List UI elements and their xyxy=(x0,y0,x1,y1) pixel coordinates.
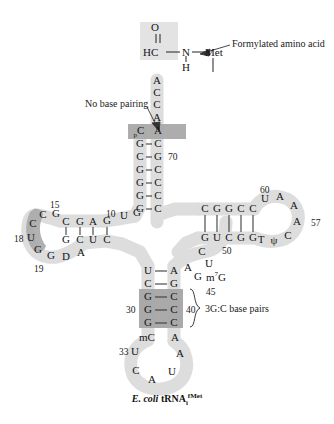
base-acstem-left-2: G xyxy=(142,291,154,302)
base-dstem-bottom-3: C xyxy=(101,234,113,245)
base-tstem-top-0: C xyxy=(199,203,211,214)
base-acceptor-right-6: C xyxy=(152,203,164,214)
label-30: 30 xyxy=(126,306,136,316)
base-acstem-right-1: G xyxy=(168,278,180,289)
base-tloop-4: C xyxy=(282,230,294,241)
formyl-oxygen: O xyxy=(151,22,159,33)
label-70: 70 xyxy=(168,153,178,163)
annotation-formylated: Formylated amino acid xyxy=(232,38,325,49)
base-tloop-1: A xyxy=(274,191,286,202)
formyl-hydrogen: H xyxy=(182,62,190,73)
base-acceptor-right-1: C xyxy=(152,138,164,149)
label-60: 60 xyxy=(260,186,270,196)
base-acstem-left-3: G xyxy=(142,304,154,315)
base-acceptor-left-3: G xyxy=(134,164,146,175)
figure-caption: E. coli tRNAifMet xyxy=(0,392,334,407)
label-57: 57 xyxy=(311,219,321,229)
base-dloop-2: C xyxy=(27,218,39,229)
base-acceptor-right-2: G xyxy=(152,151,164,162)
base-acceptor-left-5: G xyxy=(134,190,146,201)
caption-subscript: i xyxy=(186,399,188,407)
base-acceptor-end-3: A xyxy=(151,112,163,123)
base-acstem-right-2: C xyxy=(168,291,180,302)
caption-trna: tRNA xyxy=(161,393,186,404)
base-dloop-3: U xyxy=(25,232,37,243)
base-acstem-right-3: C xyxy=(168,304,180,315)
base-acloop-2: A xyxy=(146,374,158,385)
met-label: Met xyxy=(205,47,223,58)
formyl-hc: HC xyxy=(143,47,158,58)
base-tloop-2: A xyxy=(288,200,300,211)
base-acceptor-end-1: C xyxy=(151,87,163,98)
base-dstem-top-2: A xyxy=(87,216,99,227)
base-acstem-right-0: A xyxy=(168,265,180,276)
label-15: 15 xyxy=(50,201,60,211)
label-45: 45 xyxy=(206,288,216,298)
base-junction-left-0: U xyxy=(118,210,130,221)
base-tstem-bottom-2: C xyxy=(223,232,235,243)
label-18: 18 xyxy=(14,235,24,245)
base-variable-0: C xyxy=(196,246,208,257)
label-10: 10 xyxy=(106,210,116,220)
base-acloop-4: A xyxy=(174,348,186,359)
base-variable-1: U xyxy=(203,258,215,269)
base-tstem-top-2: G xyxy=(223,203,235,214)
base-tloop-6: T xyxy=(255,234,267,245)
base-acceptor-left-1: G xyxy=(134,138,146,149)
base-tstem-top-1: G xyxy=(211,203,223,214)
annotation-gc-base-pairs: 3G:C base pairs xyxy=(205,303,269,314)
label-40: 40 xyxy=(186,306,196,316)
base-tstem-bottom-3: G xyxy=(235,232,247,243)
base-variable-3: G xyxy=(192,271,204,282)
annotation-no-base-pairing: No base pairing xyxy=(85,98,148,109)
formyl-nitrogen: N xyxy=(182,47,190,58)
label-19: 19 xyxy=(34,265,44,275)
base-acstem-left-0: U xyxy=(142,265,154,276)
base-acloop-0: U xyxy=(129,346,141,357)
base-dstem-bottom-1: C xyxy=(74,234,86,245)
base-acceptor-right-3: C xyxy=(152,164,164,175)
base-variable-m7g: m7G xyxy=(205,269,227,283)
base-acceptor-end-2: C xyxy=(151,99,163,110)
label-33: 33 xyxy=(119,348,129,358)
base-dloop-4: G xyxy=(32,244,44,255)
base-tstem-bottom-0: G xyxy=(199,232,211,243)
base-dloop-6: D xyxy=(60,251,72,262)
base-acstem-left-5: mC xyxy=(137,332,157,343)
label-50: 50 xyxy=(222,247,232,257)
base-acstem-right-4: C xyxy=(168,317,180,328)
base-dloop-5: G xyxy=(45,250,57,261)
base-acloop-1: C xyxy=(130,365,142,376)
base-acceptor-right-0: A xyxy=(152,125,164,136)
base-dstem-bottom-2: U xyxy=(87,234,99,245)
base-acceptor-left-2: C xyxy=(134,151,146,162)
base-tstem-top-4: C xyxy=(247,203,259,214)
caption-superscript: fMet xyxy=(188,392,202,400)
trna-figure: O HC N H Met Formylated amino acid No ba… xyxy=(0,0,334,424)
base-acstem-left-1: C xyxy=(142,278,154,289)
base-acceptor-left-4: G xyxy=(134,177,146,188)
base-dstem-top-1: G xyxy=(74,216,86,227)
base-junction-left-1: G xyxy=(131,207,143,218)
base-tstem-bottom-1: U xyxy=(211,232,223,243)
base-acceptor-right-4: C xyxy=(152,177,164,188)
base-acloop-3: U xyxy=(166,366,178,377)
base-dstem-bottom-0: G xyxy=(60,234,72,245)
base-tstem-top-3: C xyxy=(235,203,247,214)
base-acceptor-right-5: C xyxy=(152,190,164,201)
base-tloop-5: ψ xyxy=(268,235,280,246)
caption-species: E. coli xyxy=(132,393,159,404)
base-acceptor-end-0: A xyxy=(151,75,163,86)
base-acstem-left-4: G xyxy=(142,317,154,328)
base-dloop-7: A xyxy=(75,247,87,258)
base-acstem-right-5: A xyxy=(169,332,181,343)
ribbon-t-to-acceptor xyxy=(163,209,198,213)
base-tloop-3: A xyxy=(291,216,303,227)
